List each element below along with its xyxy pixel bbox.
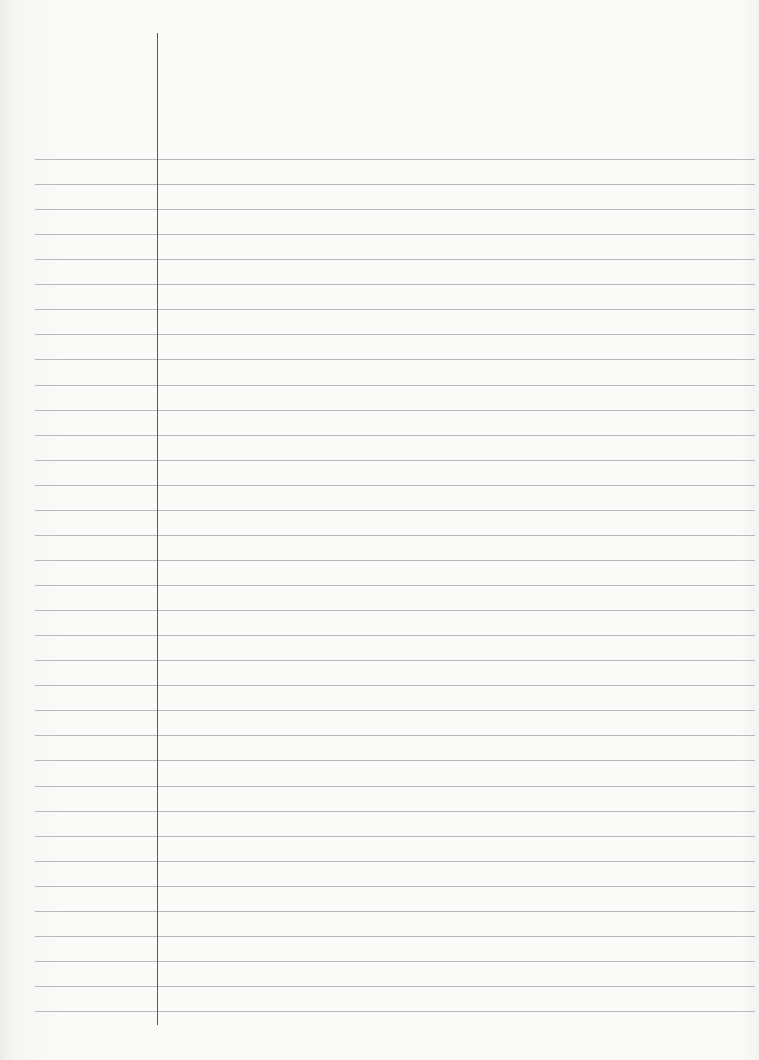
ruled-line [35, 1011, 755, 1012]
ruled-line [35, 159, 755, 160]
ruled-line [35, 334, 755, 335]
ruled-line [35, 760, 755, 761]
ruled-line [35, 710, 755, 711]
ruled-line [35, 986, 755, 987]
ruled-line [35, 786, 755, 787]
ruled-line [35, 234, 755, 235]
ruled-line [35, 610, 755, 611]
ruled-line [35, 635, 755, 636]
ruled-line [35, 485, 755, 486]
ruled-line [35, 359, 755, 360]
ruled-line [35, 886, 755, 887]
ruled-line [35, 209, 755, 210]
ruled-line [35, 836, 755, 837]
lined-paper-sheet [0, 0, 759, 1060]
ruled-line [35, 284, 755, 285]
margin-line [157, 33, 158, 1025]
ruled-line [35, 961, 755, 962]
ruled-line [35, 385, 755, 386]
ruled-line [35, 435, 755, 436]
ruled-line [35, 460, 755, 461]
ruled-line [35, 660, 755, 661]
ruled-line [35, 911, 755, 912]
ruled-line [35, 936, 755, 937]
ruled-line [35, 259, 755, 260]
ruled-line [35, 535, 755, 536]
ruled-line [35, 861, 755, 862]
ruled-line [35, 309, 755, 310]
ruled-line [35, 560, 755, 561]
ruled-line [35, 184, 755, 185]
ruled-line [35, 685, 755, 686]
ruled-line [35, 811, 755, 812]
ruled-line [35, 735, 755, 736]
ruled-line [35, 585, 755, 586]
ruled-line [35, 410, 755, 411]
ruled-line [35, 510, 755, 511]
